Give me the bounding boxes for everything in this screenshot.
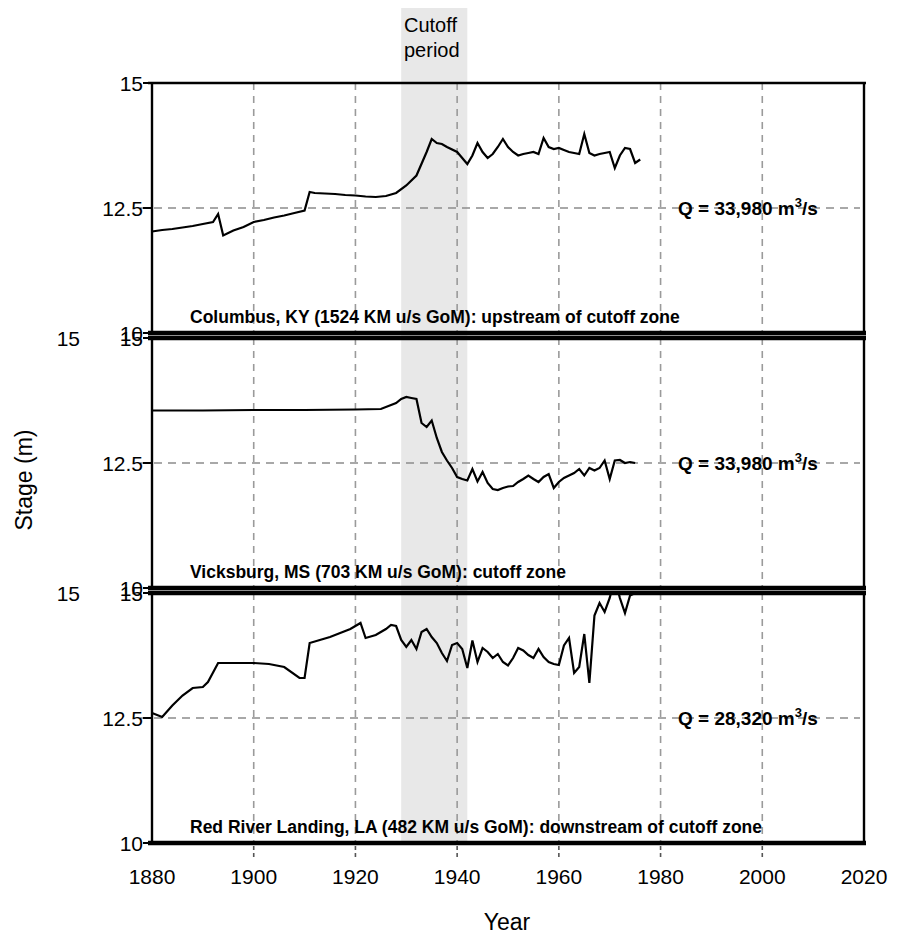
- panel-caption-1: Columbus, KY (1524 KM u/s GoM): upstream…: [190, 307, 680, 327]
- x-tick-label-2020: 2020: [841, 865, 888, 888]
- x-tick-label-1960: 1960: [535, 865, 582, 888]
- y-tick-label-15: 15: [120, 582, 143, 605]
- x-tick-label-1900: 1900: [230, 865, 277, 888]
- panel-caption-3: Red River Landing, LA (482 KM u/s GoM): …: [190, 817, 762, 837]
- discharge-label-units: /s: [802, 453, 818, 474]
- y-tick-label-10: 10: [120, 832, 143, 855]
- y-axis-title: Stage (m): [11, 430, 37, 531]
- y-tick-label-12.5: 12.5: [102, 452, 143, 475]
- figure-root: 1012.515Q = 33,980 m3/sColumbus, KY (152…: [0, 0, 906, 950]
- discharge-label-exponent: 3: [795, 450, 802, 465]
- discharge-label-units: /s: [802, 198, 818, 219]
- y-tick-label-15-outer: 15: [57, 582, 80, 605]
- discharge-label-exponent: 3: [795, 195, 802, 210]
- cutoff-label-line1: Cutoff: [404, 14, 457, 36]
- discharge-label-exponent: 3: [795, 705, 802, 720]
- discharge-label-units: /s: [802, 708, 818, 729]
- cutoff-label-line2: period: [404, 39, 460, 61]
- x-tick-label-1940: 1940: [434, 865, 481, 888]
- stage-vs-year-multipanel-chart: 1012.515Q = 33,980 m3/sColumbus, KY (152…: [0, 0, 906, 950]
- x-axis-title: Year: [484, 909, 531, 935]
- y-tick-label-15: 15: [120, 327, 143, 350]
- x-tick-label-1980: 1980: [637, 865, 684, 888]
- x-tick-label-1920: 1920: [332, 865, 379, 888]
- y-tick-label-15-outer: 15: [57, 327, 80, 350]
- y-tick-label-12.5: 12.5: [102, 707, 143, 730]
- x-tick-label-1880: 1880: [129, 865, 176, 888]
- x-tick-label-2000: 2000: [739, 865, 786, 888]
- y-tick-label-15: 15: [120, 72, 143, 95]
- panel-caption-2: Vicksburg, MS (703 KM u/s GoM): cutoff z…: [190, 562, 566, 582]
- y-tick-label-12.5: 12.5: [102, 197, 143, 220]
